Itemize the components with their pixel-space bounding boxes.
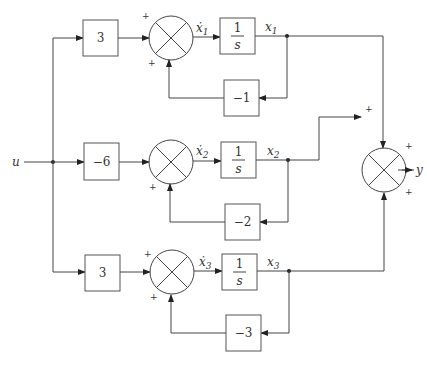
summing-junction-3 xyxy=(150,250,194,294)
sum-2-sign-bottom: + xyxy=(149,182,157,192)
summing-junction-2 xyxy=(149,140,193,184)
integrator-1-den: s xyxy=(234,38,240,52)
gain-2-value: −6 xyxy=(93,155,111,169)
x-2-label: x2 xyxy=(267,144,280,160)
sum-3-sign-top: + xyxy=(144,249,152,259)
integrator-2-num: 1 xyxy=(235,145,243,159)
xdot-1-label: ẋ1 xyxy=(196,21,209,37)
integrator-1-num: 1 xyxy=(234,21,242,35)
xdot-3-label: ẋ3 xyxy=(199,255,212,271)
output-sum-sign-bottom: + xyxy=(405,187,413,197)
input-label: u xyxy=(12,155,20,169)
gain-3-value: 3 xyxy=(99,266,107,280)
block-diagram: u 3 + + ẋ1 1 s x1 −1 −6 xyxy=(0,0,427,369)
output-sum-sign-left: + xyxy=(365,104,373,114)
x-1-label: x1 xyxy=(265,20,278,36)
row-3: 3 + + ẋ3 1 s x3 −3 xyxy=(53,193,384,351)
feedback-1-value: −1 xyxy=(233,91,251,105)
integrator-3-den: s xyxy=(236,274,242,288)
gain-1-value: 3 xyxy=(97,31,105,45)
output-sum-sign-top: + xyxy=(405,141,413,151)
sum-3-sign-bottom: + xyxy=(150,292,158,302)
sum-1-sign-bottom: + xyxy=(148,58,156,68)
x-3-label: x3 xyxy=(267,255,280,271)
row-1: 3 + + ẋ1 1 s x1 −1 xyxy=(53,11,383,148)
output-label: y xyxy=(415,163,423,177)
feedback-3-value: −3 xyxy=(235,326,253,340)
integrator-3-num: 1 xyxy=(236,257,244,271)
xdot-2-label: ẋ2 xyxy=(196,144,209,160)
integrator-2-den: s xyxy=(235,162,241,176)
sum-1-sign-top: + xyxy=(142,11,150,21)
row-2: −6 + ẋ2 1 s x2 −2 xyxy=(53,117,361,240)
summing-junction-1 xyxy=(149,16,193,60)
feedback-2-value: −2 xyxy=(234,215,252,229)
